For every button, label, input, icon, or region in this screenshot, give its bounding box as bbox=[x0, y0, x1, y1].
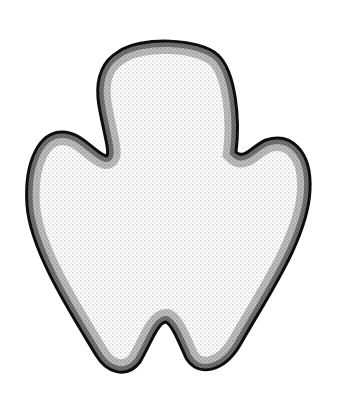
stippled-blob-illustration bbox=[0, 0, 337, 406]
